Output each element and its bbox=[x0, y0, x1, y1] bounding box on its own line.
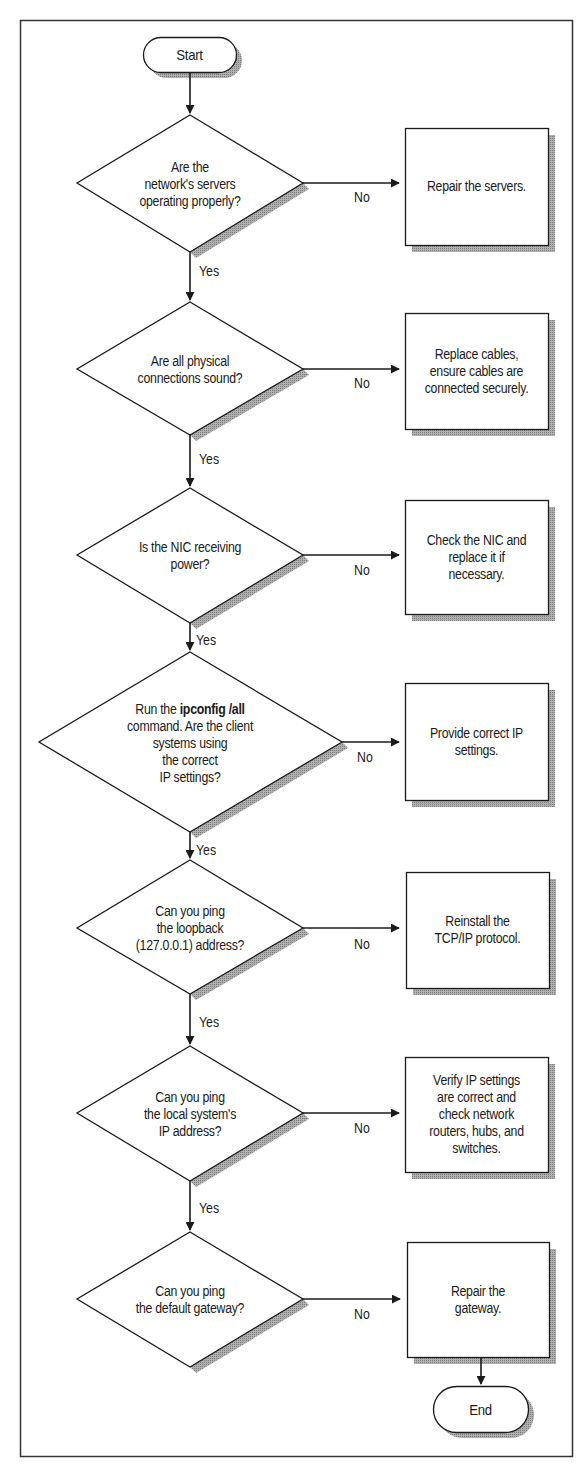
decision-4-prefix: Run the bbox=[135, 701, 179, 717]
d5-no-label: No bbox=[354, 936, 370, 952]
d2-yes-label: Yes bbox=[199, 451, 219, 467]
decision-5-text: Can you ping the loopback (127.0.0.1) ad… bbox=[106, 900, 273, 956]
action-3-line-3: necessary. bbox=[448, 566, 504, 583]
action-3-text: Check the NIC and replace it if necessar… bbox=[414, 500, 540, 614]
d1-no-label: No bbox=[354, 189, 370, 205]
action-7-text: Repair the gateway. bbox=[416, 1242, 541, 1357]
action-7-line-1: Repair the bbox=[451, 1283, 505, 1300]
action-5-line-2: TCP/IP protocol. bbox=[435, 930, 521, 947]
start-label: Start bbox=[149, 37, 231, 72]
action-5-line-1: Reinstall the bbox=[445, 913, 509, 930]
decision-5-line-3: (127.0.0.1) address? bbox=[136, 937, 244, 954]
d6-yes-label: Yes bbox=[199, 1200, 219, 1216]
decision-1-text: Are the network's servers operating prop… bbox=[106, 154, 273, 214]
end-label: End bbox=[439, 1386, 523, 1432]
action-1-text: Repair the servers. bbox=[414, 128, 540, 245]
action-1-line-1: Repair the servers. bbox=[427, 178, 526, 195]
decision-3-line-2: power? bbox=[171, 556, 210, 573]
d6-no-label: No bbox=[354, 1120, 370, 1136]
action-6-line-4: routers, hubs, and bbox=[429, 1123, 524, 1140]
decision-7-text: Can you ping the default gateway? bbox=[106, 1280, 273, 1320]
d2-no-label: No bbox=[354, 375, 370, 391]
decision-2-line-2: connections sound? bbox=[138, 370, 243, 387]
d7-no-label: No bbox=[354, 1306, 370, 1322]
decision-4-text: Run the ipconfig /all command. Are the c… bbox=[89, 698, 291, 788]
decision-6-line-3: IP address? bbox=[159, 1123, 222, 1140]
decision-1-line-1: Are the bbox=[171, 159, 209, 176]
action-7-line-2: gateway. bbox=[455, 1300, 501, 1317]
decision-3-line-1: Is the NIC receiving bbox=[139, 539, 241, 556]
decision-5-line-2: the loopback bbox=[157, 920, 224, 937]
decision-2-line-1: Are all physical bbox=[151, 353, 230, 370]
action-6-line-3: check network bbox=[439, 1106, 514, 1123]
action-5-text: Reinstall the TCP/IP protocol. bbox=[415, 872, 541, 988]
ipconfig-command: ipconfig /all bbox=[180, 701, 245, 717]
decision-4-line-3: systems using bbox=[153, 735, 228, 752]
decision-1-line-2: network's servers bbox=[145, 176, 236, 193]
decision-5-line-1: Can you ping bbox=[155, 903, 224, 920]
decision-6-line-2: the local system's bbox=[144, 1106, 236, 1123]
decision-6-text: Can you ping the local system's IP addre… bbox=[106, 1086, 273, 1142]
decision-7-line-1: Can you ping bbox=[155, 1283, 224, 1300]
decision-4-line-2: command. Are the client bbox=[127, 718, 253, 735]
action-4-line-1: Provide correct IP bbox=[430, 725, 523, 742]
action-6-text: Verify IP settings are correct and check… bbox=[414, 1057, 540, 1172]
action-4-line-2: settings. bbox=[455, 742, 499, 759]
action-2-text: Replace cables, ensure cables are connec… bbox=[414, 313, 540, 429]
d1-yes-label: Yes bbox=[199, 263, 219, 279]
d3-yes-label: Yes bbox=[196, 632, 216, 648]
decision-4-line-4: the correct bbox=[162, 752, 217, 769]
action-4-text: Provide correct IP settings. bbox=[414, 683, 540, 800]
action-6-line-1: Verify IP settings bbox=[433, 1072, 520, 1089]
action-3-line-1: Check the NIC and bbox=[427, 532, 527, 549]
action-2-line-3: connected securely. bbox=[425, 380, 529, 397]
action-6-line-5: switches. bbox=[452, 1140, 500, 1157]
decision-2-text: Are all physical connections sound? bbox=[106, 350, 273, 390]
d4-no-label: No bbox=[357, 749, 373, 765]
decision-4-line-5: IP settings? bbox=[160, 769, 221, 786]
action-6-line-2: are correct and bbox=[437, 1089, 516, 1106]
action-3-line-2: replace it if bbox=[448, 549, 504, 566]
d3-no-label: No bbox=[354, 562, 370, 578]
d4-yes-label: Yes bbox=[196, 842, 216, 858]
action-2-line-1: Replace cables, bbox=[435, 346, 519, 363]
d5-yes-label: Yes bbox=[199, 1014, 219, 1030]
decision-1-line-3: operating properly? bbox=[139, 193, 240, 210]
decision-3-text: Is the NIC receiving power? bbox=[106, 536, 273, 576]
decision-7-line-2: the default gateway? bbox=[136, 1300, 244, 1317]
decision-6-line-1: Can you ping bbox=[155, 1089, 224, 1106]
decision-4-line-1: Run the ipconfig /all bbox=[135, 701, 244, 718]
action-2-line-2: ensure cables are bbox=[430, 363, 523, 380]
